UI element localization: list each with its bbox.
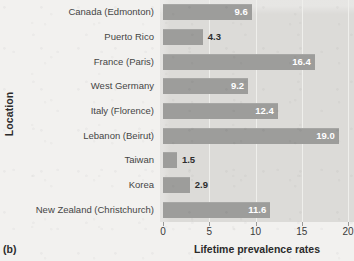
y-axis-tick-label: Taiwan: [14, 155, 154, 165]
x-axis: 05101520 Lifetime prevalence rates: [160, 222, 354, 261]
bar-value-label: 11.6: [163, 202, 266, 218]
bar-value-label: 9.2: [163, 78, 244, 94]
bar-value-label: 16.4: [163, 54, 311, 70]
x-axis-title: Lifetime prevalence rates: [160, 243, 354, 255]
bar-value-label: 12.4: [163, 103, 274, 119]
x-axis-tick-label: 5: [196, 226, 222, 237]
y-axis-tick-label: New Zealand (Christchurch): [14, 205, 154, 215]
x-axis-tick-label: 10: [243, 226, 269, 237]
plot-area: 9.64.316.49.212.419.01.52.911.6: [160, 0, 354, 222]
y-axis-tick-label: Korea: [14, 180, 154, 190]
y-axis-tick-label: France (Paris): [14, 57, 154, 67]
panel-letter: (b): [3, 243, 16, 255]
bar-value-label: 2.9: [195, 177, 208, 193]
bar: [163, 152, 177, 168]
y-axis-tick-label: Lebanon (Beirut): [14, 131, 154, 141]
bar-value-label: 9.6: [163, 4, 248, 20]
x-axis-tick-label: 20: [335, 226, 354, 237]
y-axis-tick-label: Italy (Florence): [14, 106, 154, 116]
y-axis-tick-label: West Germany: [14, 81, 154, 91]
bar-value-label: 4.3: [208, 29, 221, 45]
bar: [163, 29, 203, 45]
y-axis-tick-labels: Canada (Edmonton)Puerto RicoFrance (Pari…: [18, 0, 158, 222]
y-axis-tick-label: Canada (Edmonton): [14, 7, 154, 17]
gridline: [302, 0, 303, 222]
bar-value-label: 19.0: [163, 128, 335, 144]
x-axis-tick-label: 15: [289, 226, 315, 237]
x-axis-tick-label: 0: [150, 226, 176, 237]
y-axis-tick-label: Puerto Rico: [14, 32, 154, 42]
bar: [163, 177, 190, 193]
gridline: [348, 0, 349, 222]
bar-chart-figure: Location Canada (Edmonton)Puerto RicoFra…: [0, 0, 354, 261]
bar-value-label: 1.5: [182, 152, 195, 168]
